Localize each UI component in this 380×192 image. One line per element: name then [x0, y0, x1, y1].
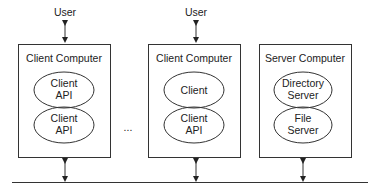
client-line1: Client	[181, 84, 208, 96]
architecture-diagram: User User Client Computer Client API Cli…	[0, 0, 380, 192]
user-2: User	[185, 6, 208, 18]
user-2-label: User	[185, 6, 208, 18]
server-computer: Server Computer Directory Server File Se…	[260, 45, 352, 158]
client-computer-1: Client Computer Client API Client API	[19, 45, 111, 158]
client-api-bottom-line2: API	[56, 124, 73, 136]
ellipsis: ...	[124, 121, 133, 133]
file-server-line1: File	[295, 112, 312, 124]
client-api-bottom-line1: Client	[51, 112, 78, 124]
user-1: User	[54, 6, 77, 18]
client-api-line2: API	[186, 124, 203, 136]
server-computer-title: Server Computer	[265, 52, 345, 64]
client-api-top-line2: API	[56, 89, 73, 101]
file-server-line2: Server	[288, 124, 319, 136]
client-computer-2: Client Computer Client Client API	[149, 45, 241, 158]
client-api-line1: Client	[181, 112, 208, 124]
client-computer-1-title: Client Computer	[26, 52, 102, 64]
directory-server-line1: Directory	[282, 77, 325, 89]
client-api-top-line1: Client	[51, 77, 78, 89]
client-computer-2-title: Client Computer	[156, 52, 232, 64]
user-1-label: User	[54, 6, 77, 18]
directory-server-line2: Server	[288, 89, 319, 101]
